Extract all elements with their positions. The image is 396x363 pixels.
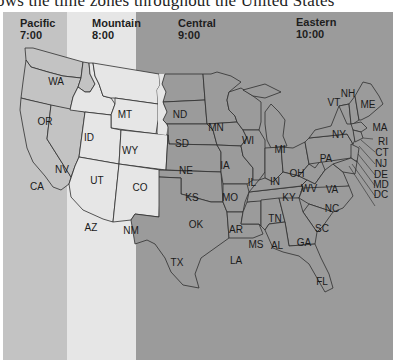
state-label-or: OR [38, 116, 53, 127]
zone-header-central: Central 9:00 [178, 17, 216, 41]
state-label-dc: DC [374, 189, 388, 200]
state-label-tn: TN [268, 213, 281, 224]
state-label-ky: KY [282, 192, 295, 203]
state-nm [113, 164, 161, 222]
state-label-wi: WI [242, 135, 254, 146]
zone-name: Central [178, 17, 216, 29]
state-label-ma: MA [373, 122, 388, 133]
time-zone-map: Pacific 7:00 Mountain 8:00 Central 9:00 … [3, 12, 393, 360]
state-label-in: IN [270, 176, 280, 187]
zone-time: 8:00 [92, 29, 141, 41]
state-label-oh: OH [290, 168, 305, 179]
state-label-id: ID [84, 132, 94, 143]
state-nd [162, 74, 205, 102]
state-label-ar: AR [229, 224, 243, 235]
state-label-ct: CT [375, 147, 388, 158]
state-label-co: CO [133, 182, 148, 193]
state-label-ms: MS [249, 239, 264, 250]
state-label-nh: NH [341, 88, 355, 99]
state-label-ny: NY [332, 129, 346, 140]
zone-name: Eastern [296, 16, 336, 28]
state-label-nc: NC [325, 203, 339, 214]
state-label-nj: NJ [375, 158, 387, 169]
state-label-ks: KS [185, 192, 198, 203]
state-label-me: ME [361, 99, 376, 110]
state-label-tx: TX [171, 257, 184, 268]
state-label-mn: MN [208, 122, 224, 133]
state-label-ia: IA [220, 160, 229, 171]
state-label-ok: OK [189, 219, 203, 230]
state-label-il: IL [248, 177, 256, 188]
state-label-wv: WV [301, 183, 317, 194]
zone-name: Mountain [92, 17, 141, 29]
caption-text: ows the time zones throughout the United… [0, 0, 334, 11]
state-label-mi: MI [274, 144, 285, 155]
state-label-ne: NE [179, 165, 193, 176]
zone-time: 7:00 [20, 29, 55, 41]
state-label-nd: ND [173, 109, 187, 120]
zone-header-mountain: Mountain 8:00 [92, 17, 141, 41]
state-label-ca: CA [30, 181, 44, 192]
state-label-la: LA [230, 255, 242, 266]
state-label-va: VA [326, 184, 339, 195]
state-label-pa: PA [320, 153, 333, 164]
state-label-fl: FL [316, 276, 328, 287]
state-label-sc: SC [315, 223, 329, 234]
state-label-mt: MT [118, 109, 132, 120]
zone-header-eastern: Eastern 10:00 [296, 16, 336, 40]
zone-time: 10:00 [296, 28, 336, 40]
state-label-az: AZ [85, 222, 98, 233]
state-label-ga: GA [297, 237, 311, 248]
state-label-nv: NV [55, 164, 69, 175]
state-label-ri: RI [378, 136, 388, 147]
state-label-mo: MO [222, 192, 238, 203]
state-label-sd: SD [175, 138, 189, 149]
zone-header-pacific: Pacific 7:00 [20, 17, 55, 41]
state-label-nm: NM [123, 225, 139, 236]
state-label-ut: UT [90, 175, 103, 186]
zone-name: Pacific [20, 17, 55, 29]
state-label-wy: WY [122, 145, 138, 156]
state-label-al: AL [271, 240, 283, 251]
zone-time: 9:00 [178, 29, 216, 41]
state-label-vt: VT [328, 97, 341, 108]
state-label-wa: WA [48, 76, 64, 87]
